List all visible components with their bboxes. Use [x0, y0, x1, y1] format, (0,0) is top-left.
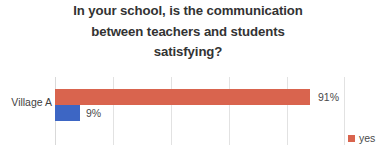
category-label-village-a: Village A: [2, 96, 52, 108]
chart-title: In your school, is the communication bet…: [0, 1, 376, 63]
gridline-5: [344, 77, 345, 145]
chart-title-line-1: In your school, is the communication: [0, 1, 376, 22]
plot-area: 91% 9%: [55, 77, 345, 145]
bar-series-no[interactable]: [55, 105, 80, 121]
chart-container: In your school, is the communication bet…: [0, 0, 376, 151]
value-label-yes: 91%: [318, 91, 339, 103]
chart-legend: yes: [348, 132, 375, 144]
gridline-2: [171, 77, 172, 145]
value-label-no: 9%: [86, 107, 101, 119]
legend-swatch-yes-icon: [348, 135, 355, 142]
gridline-1: [113, 77, 114, 145]
gridline-3: [229, 77, 230, 145]
legend-label-yes[interactable]: yes: [359, 132, 375, 144]
bar-series-yes[interactable]: [55, 89, 310, 105]
chart-title-line-2: between teachers and students: [0, 22, 376, 43]
gridline-4: [287, 77, 288, 145]
chart-title-line-3: satisfying?: [0, 42, 376, 63]
